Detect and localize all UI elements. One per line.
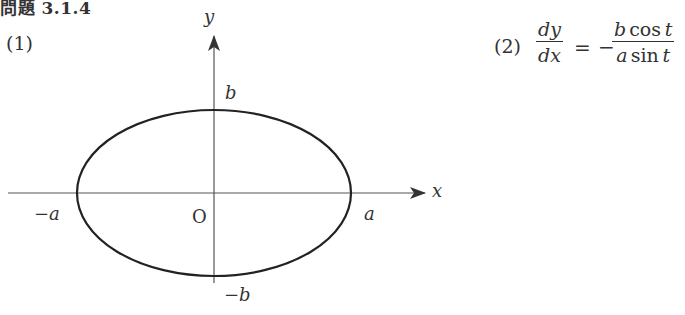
rhs-denominator: asin t [612, 41, 674, 68]
func-sin: sin [631, 44, 659, 66]
equals-sign: = [574, 36, 591, 60]
label-b: b [225, 82, 237, 103]
denominator-dx: dx [536, 41, 563, 68]
var-t-den: t [663, 44, 671, 66]
label-a: a [364, 203, 375, 224]
label-neg-b: −b [224, 284, 251, 305]
coef-a: a [616, 44, 627, 66]
rhs-numerator: bcos t [612, 17, 674, 41]
x-axis-label: x [432, 180, 442, 201]
part2-label: (2) [494, 35, 521, 57]
derivative-fraction: dy dx [536, 17, 563, 68]
numerator-dy: dy [536, 17, 563, 41]
label-neg-a: −a [34, 203, 60, 224]
func-cos: cos [629, 18, 661, 40]
var-t-num: t [665, 18, 673, 40]
y-axis-label: y [204, 6, 214, 27]
rhs-fraction: bcos t asin t [612, 17, 674, 68]
origin-label: O [192, 206, 207, 227]
coef-b: b [614, 18, 626, 40]
